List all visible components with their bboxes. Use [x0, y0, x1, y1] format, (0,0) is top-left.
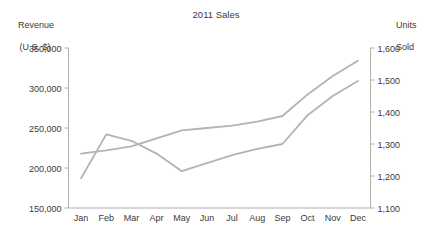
- left-axis-tick-label: 250,000: [29, 124, 62, 134]
- x-axis-tick-label: Nov: [325, 213, 342, 223]
- x-axis-tick-label: Feb: [98, 213, 114, 223]
- x-axis: JanFebMarAprMayJunJulAugSepOctNovDec: [69, 208, 371, 223]
- x-axis-tick-label: Jul: [226, 213, 238, 223]
- right-axis-tick-label: 1,500: [378, 76, 401, 86]
- left-axis-tick-label: 150,000: [29, 204, 62, 214]
- chart-container: Revenue (U.S. $) 2011 Sales Units Sold 1…: [0, 0, 432, 237]
- x-axis-tick-label: Dec: [350, 213, 367, 223]
- series-line-0: [81, 61, 358, 154]
- left-axis: 150,000200,000250,000300,000350,000: [29, 44, 69, 214]
- x-axis-tick-label: Mar: [124, 213, 140, 223]
- right-axis-tick-label: 1,600: [378, 44, 401, 54]
- right-axis: 1,1001,2001,3001,4001,5001,600: [371, 44, 401, 214]
- right-axis-tick-label: 1,300: [378, 140, 401, 150]
- chart-plot-area: 150,000200,000250,000300,000350,000 1,10…: [0, 0, 432, 237]
- series-line-1: [81, 81, 358, 178]
- x-axis-tick-label: May: [173, 213, 191, 223]
- left-axis-tick-label: 300,000: [29, 84, 62, 94]
- right-axis-tick-label: 1,100: [378, 204, 401, 214]
- x-axis-tick-label: Aug: [249, 213, 265, 223]
- left-axis-tick-label: 200,000: [29, 164, 62, 174]
- x-axis-tick-label: Jan: [74, 213, 89, 223]
- x-axis-tick-label: Apr: [150, 213, 164, 223]
- right-axis-tick-label: 1,400: [378, 108, 401, 118]
- x-axis-tick-label: Sep: [274, 213, 290, 223]
- x-axis-tick-label: Jun: [200, 213, 215, 223]
- left-axis-tick-label: 350,000: [29, 44, 62, 54]
- right-axis-tick-label: 1,200: [378, 172, 401, 182]
- series-lines: [81, 61, 358, 178]
- x-axis-tick-label: Oct: [301, 213, 316, 223]
